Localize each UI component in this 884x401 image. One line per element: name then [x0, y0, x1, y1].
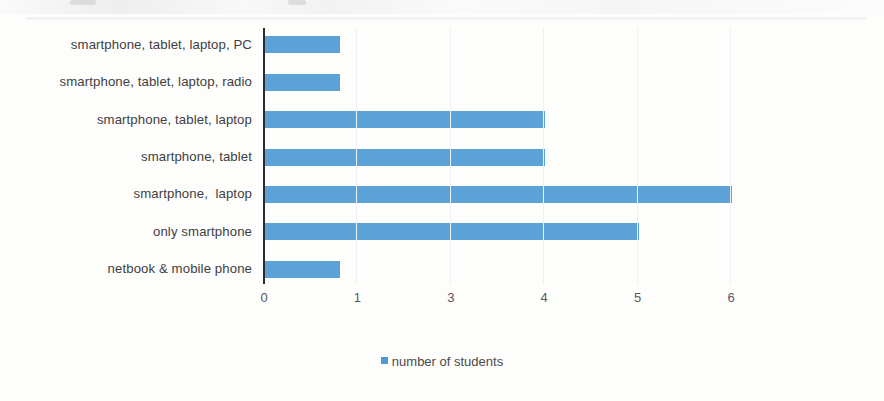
chart-page: smartphone, tablet, laptop, PCsmartphone… [0, 0, 884, 401]
category-label: smartphone, tablet [141, 149, 252, 164]
gridline-ghost [730, 28, 731, 284]
bar [265, 186, 732, 203]
bar [265, 74, 340, 91]
bar [265, 111, 545, 128]
category-label: smartphone, laptop [134, 186, 252, 201]
gridline-ghost [543, 28, 544, 284]
scan-band [26, 17, 866, 20]
x-axis-tick-label: 6 [727, 290, 734, 305]
x-axis-tick-label: 4 [541, 290, 548, 305]
value-axis-ticks: 013456 [263, 284, 883, 314]
category-axis-labels: smartphone, tablet, laptop, PCsmartphone… [0, 22, 258, 284]
category-label: smartphone, tablet, laptop, radio [60, 74, 252, 89]
gridline-ghost [356, 28, 357, 284]
category-label: smartphone, tablet, laptop [97, 112, 252, 127]
category-label: smartphone, tablet, laptop, PC [71, 37, 252, 52]
bar [265, 223, 639, 240]
bar-chart: smartphone, tablet, laptop, PCsmartphone… [0, 22, 884, 342]
legend-label: number of students [392, 354, 503, 369]
bar [265, 36, 340, 53]
x-axis-tick-label: 1 [354, 290, 361, 305]
x-axis-tick-label: 5 [634, 290, 641, 305]
bar [265, 149, 545, 166]
scan-artifact-strip [0, 0, 884, 14]
gridline-ghost [637, 28, 638, 284]
x-axis-tick-label: 3 [447, 290, 454, 305]
chart-legend: number of students [0, 348, 884, 374]
plot-area [263, 22, 823, 284]
bar [265, 261, 340, 278]
gridline-ghost [450, 28, 451, 284]
x-axis-tick-label: 0 [260, 290, 267, 305]
legend-color-swatch [381, 357, 388, 364]
category-label: only smartphone [153, 224, 252, 239]
category-label: netbook & mobile phone [108, 261, 252, 276]
